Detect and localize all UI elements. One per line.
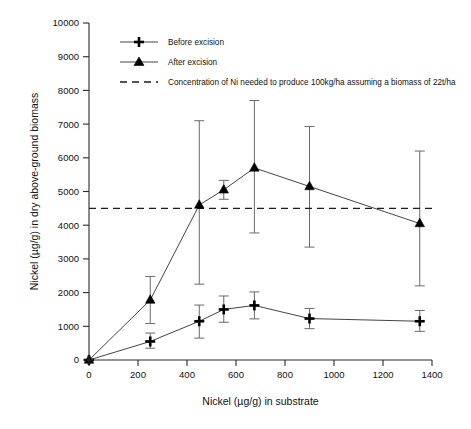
y-tick-label: 6000	[58, 152, 79, 163]
y-tick-label: 5000	[58, 186, 79, 197]
x-axis-title: Nickel (µg/g) in substrate	[202, 395, 319, 407]
legend-label: Before excision	[168, 38, 224, 47]
y-tick-label: 3000	[58, 253, 79, 264]
x-tick-label: 1200	[372, 369, 393, 380]
x-tick-label: 1000	[323, 369, 344, 380]
legend-label: After excision	[168, 58, 218, 67]
y-tick-label: 8000	[58, 85, 79, 96]
y-tick-label: 7000	[58, 119, 79, 130]
y-axis-title: Nickel (µg/g) in dry above-ground biomas…	[28, 93, 40, 290]
x-tick-label: 400	[179, 369, 195, 380]
y-tick-label: 1000	[58, 321, 79, 332]
chart-figure: 0100020003000400050006000700080009000100…	[0, 0, 471, 429]
y-tick-label: 0	[74, 354, 79, 365]
x-tick-label: 800	[277, 369, 293, 380]
x-tick-label: 0	[86, 369, 91, 380]
y-tick-label: 2000	[58, 287, 79, 298]
x-tick-label: 1400	[421, 369, 442, 380]
y-tick-label: 9000	[58, 51, 79, 62]
nickel-uptake-line-chart: 0100020003000400050006000700080009000100…	[0, 0, 471, 429]
y-tick-label: 10000	[53, 17, 79, 28]
y-tick-label: 4000	[58, 220, 79, 231]
x-tick-label: 600	[228, 369, 244, 380]
legend-label: Concentration of Ni needed to produce 10…	[168, 78, 456, 87]
x-tick-label: 200	[130, 369, 146, 380]
